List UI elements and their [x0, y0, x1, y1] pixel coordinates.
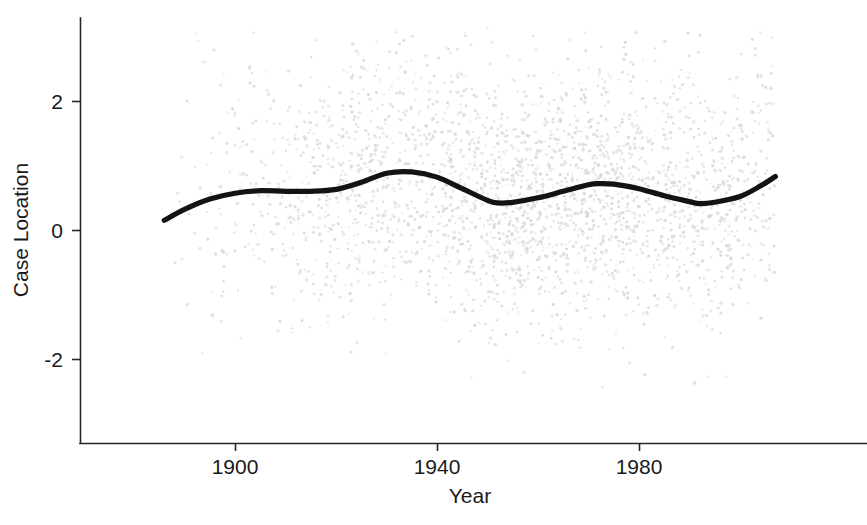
scatter-point — [472, 131, 474, 133]
scatter-point — [521, 284, 524, 287]
scatter-point — [441, 143, 444, 146]
scatter-point — [460, 139, 463, 142]
scatter-point — [711, 148, 714, 151]
scatter-point — [727, 249, 730, 252]
scatter-point — [346, 71, 348, 73]
scatter-point — [664, 336, 666, 338]
scatter-point — [679, 210, 682, 213]
scatter-point — [694, 195, 697, 198]
scatter-point — [614, 172, 617, 175]
scatter-point — [530, 207, 533, 210]
scatter-point — [703, 171, 706, 174]
scatter-point — [466, 269, 470, 273]
scatter-point — [527, 212, 530, 215]
scatter-point — [643, 214, 646, 217]
scatter-point — [515, 331, 518, 334]
scatter-point — [385, 352, 387, 354]
scatter-point — [714, 169, 717, 172]
scatter-point — [383, 179, 385, 181]
scatter-point — [250, 230, 253, 233]
scatter-point — [494, 343, 497, 346]
scatter-point — [405, 134, 408, 137]
scatter-point — [454, 222, 456, 224]
scatter-point — [388, 67, 390, 69]
scatter-point — [693, 248, 695, 250]
scatter-point — [527, 265, 529, 267]
scatter-point — [471, 138, 474, 141]
scatter-point — [442, 208, 445, 211]
scatter-point — [633, 143, 636, 146]
scatter-point — [531, 237, 534, 240]
scatter-point — [268, 203, 271, 206]
scatter-point — [525, 148, 529, 152]
scatter-point — [454, 236, 456, 238]
scatter-point — [560, 184, 562, 186]
scatter-point — [767, 138, 770, 141]
scatter-point — [749, 201, 752, 204]
scatter-point — [752, 258, 754, 260]
scatter-point — [327, 86, 330, 89]
scatter-point — [357, 164, 360, 167]
scatter-point — [309, 129, 311, 131]
scatter-point — [427, 105, 430, 108]
scatter-point — [618, 79, 620, 81]
scatter-point — [472, 168, 475, 171]
scatter-point — [697, 127, 700, 130]
scatter-point — [713, 228, 715, 230]
scatter-point — [667, 116, 670, 119]
y-tick-label: -2 — [44, 348, 63, 371]
scatter-point — [315, 123, 319, 127]
scatter-point — [693, 381, 697, 385]
scatter-point — [719, 254, 722, 257]
scatter-point — [594, 258, 596, 260]
scatter-point — [364, 129, 367, 132]
scatter-point — [531, 251, 534, 254]
scatter-point — [373, 149, 376, 152]
scatter-point — [527, 187, 530, 190]
scatter-point — [680, 286, 684, 290]
scatter-point — [728, 175, 731, 178]
scatter-point — [713, 280, 716, 283]
scatter-point — [698, 150, 700, 152]
scatter-point — [658, 207, 660, 209]
scatter-point — [646, 245, 649, 248]
scatter-point — [349, 151, 352, 154]
scatter-point — [501, 186, 503, 188]
scatter-point — [622, 253, 624, 255]
scatter-point — [673, 235, 676, 238]
scatter-point — [689, 294, 692, 297]
scatter-point — [548, 178, 551, 181]
scatter-point — [657, 170, 660, 173]
scatter-point — [737, 284, 739, 286]
scatter-point — [283, 179, 286, 182]
scatter-point — [286, 138, 289, 141]
scatter-point — [452, 141, 455, 144]
scatter-point — [512, 308, 515, 311]
scatter-point — [523, 210, 526, 213]
scatter-point — [416, 241, 419, 244]
scatter-point — [756, 75, 760, 79]
scatter-point — [517, 220, 520, 223]
scatter-point — [585, 135, 588, 138]
scatter-point — [520, 227, 522, 229]
scatter-point — [727, 224, 731, 228]
scatter-point — [432, 216, 435, 219]
scatter-point — [632, 176, 635, 179]
scatter-point — [659, 218, 661, 220]
scatter-point — [608, 238, 611, 241]
scatter-point — [523, 279, 526, 282]
scatter-point — [569, 240, 572, 243]
scatter-point — [712, 185, 715, 188]
scatter-point — [700, 154, 702, 156]
scatter-point — [628, 118, 631, 121]
scatter-point — [662, 164, 665, 167]
scatter-point — [759, 259, 762, 262]
scatter-point — [472, 210, 475, 213]
scatter-point — [297, 196, 301, 200]
scatter-point — [678, 266, 681, 269]
scatter-point — [451, 246, 455, 250]
scatter-point — [617, 202, 620, 205]
scatter-point — [244, 245, 247, 248]
scatter-point — [574, 228, 576, 230]
scatter-point — [665, 277, 667, 279]
